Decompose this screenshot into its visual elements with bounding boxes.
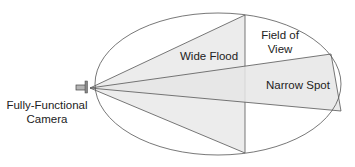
camera-icon <box>76 81 88 93</box>
fov-label: Field of View <box>250 28 310 56</box>
camera-label-line2: Camera <box>2 112 92 126</box>
fov-label-line1: Field of <box>250 28 310 42</box>
narrow-spot-label: Narrow Spot <box>266 78 330 92</box>
wide-flood-label: Wide Flood <box>180 49 238 63</box>
fov-label-line2: View <box>250 42 310 56</box>
camera-label: Fully-Functional Camera <box>2 98 92 126</box>
camera-label-line1: Fully-Functional <box>2 98 92 112</box>
